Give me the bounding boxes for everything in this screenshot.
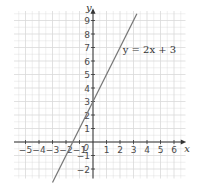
y-tick-label: 3 (84, 97, 90, 107)
y-tick-label: 4 (84, 84, 90, 94)
y-tick-label: −2 (77, 165, 90, 175)
x-tick-label: 1 (104, 145, 110, 155)
equation-label: y = 2x + 3 (122, 44, 177, 55)
y-tick-label: 8 (84, 30, 90, 40)
y-axis-label: y (85, 2, 92, 13)
origin-label: 0 (83, 143, 89, 153)
x-axis-label: x (184, 143, 190, 154)
x-tick-label: 4 (144, 145, 150, 155)
x-tick-label: −3 (46, 145, 59, 155)
chart: −5−4−3−2−1123456−2−1123456789 y = 2x + 3… (0, 0, 210, 188)
x-tick-label: −5 (19, 145, 32, 155)
y-tick-label: 5 (84, 70, 90, 80)
x-tick-label: 6 (171, 145, 177, 155)
series (53, 14, 137, 183)
x-tick-label: 5 (158, 145, 164, 155)
y-tick-label: 1 (84, 124, 90, 134)
series-line (53, 14, 137, 183)
x-tick-label: 3 (131, 145, 137, 155)
tick-labels: −5−4−3−2−1123456−2−1123456789 (19, 16, 177, 175)
x-tick-label: −4 (32, 145, 46, 155)
y-tick-label: 7 (84, 43, 90, 53)
y-tick-label: 6 (84, 57, 90, 67)
x-tick-label: 2 (117, 145, 123, 155)
y-tick-label: 9 (84, 16, 90, 26)
